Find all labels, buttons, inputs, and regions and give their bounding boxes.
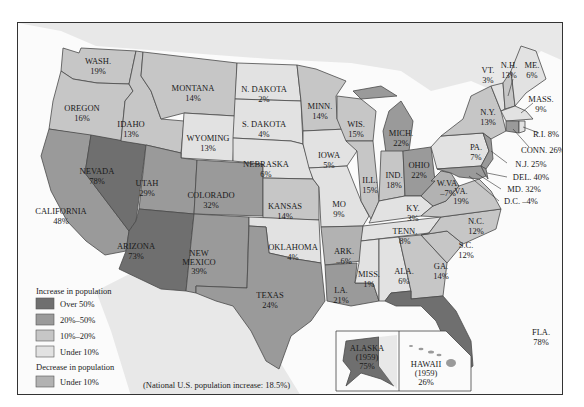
- svg-text:1%: 1%: [363, 279, 374, 289]
- svg-text:COLORADO: COLORADO: [187, 190, 234, 200]
- svg-text:WIS.: WIS.: [347, 119, 365, 129]
- svg-text:N. DAKOTA: N. DAKOTA: [241, 84, 287, 94]
- svg-text:N.H.: N.H.: [501, 60, 518, 70]
- svg-text:19%: 19%: [90, 66, 106, 76]
- national-increase-note: (National U.S. population increase: 18.5…: [143, 380, 290, 390]
- svg-text:MO: MO: [332, 199, 346, 209]
- svg-text:39%: 39%: [191, 266, 207, 276]
- svg-text:LA.: LA.: [334, 285, 347, 295]
- svg-text:18%: 18%: [386, 180, 402, 190]
- svg-text:6%: 6%: [526, 70, 537, 80]
- svg-text:29%: 29%: [139, 188, 155, 198]
- map-frame: WASH.19% OREGON16% CALIFORNIA48% IDAHO13…: [17, 22, 563, 395]
- svg-text:12%: 12%: [458, 250, 474, 260]
- svg-text:MASS.: MASS.: [528, 94, 553, 104]
- svg-text:Decrease in population: Decrease in population: [36, 362, 115, 372]
- svg-text:4%: 4%: [287, 252, 298, 262]
- svg-text:OKLAHOMA: OKLAHOMA: [268, 242, 318, 252]
- svg-text:–6%: –6%: [335, 256, 352, 266]
- svg-text:OREGON: OREGON: [64, 103, 99, 113]
- svg-text:NEBRASKA: NEBRASKA: [243, 159, 290, 169]
- svg-text:N.J. 25%: N.J. 25%: [515, 159, 546, 169]
- svg-text:78%: 78%: [89, 176, 105, 186]
- svg-text:Under 10%: Under 10%: [60, 347, 99, 357]
- svg-text:IOWA: IOWA: [318, 150, 341, 160]
- svg-text:75%: 75%: [359, 361, 375, 371]
- svg-text:MICH.: MICH.: [389, 128, 413, 138]
- svg-text:13%: 13%: [200, 143, 216, 153]
- svg-text:MISS.: MISS.: [358, 269, 380, 279]
- svg-text:48%: 48%: [53, 216, 69, 226]
- svg-text:KANSAS: KANSAS: [268, 201, 302, 211]
- svg-text:KY.: KY.: [406, 203, 419, 213]
- svg-text:N.Y.: N.Y.: [480, 107, 495, 117]
- state-connecticut: [506, 121, 519, 133]
- svg-text:TEXAS: TEXAS: [256, 290, 284, 300]
- svg-text:MONTANA: MONTANA: [172, 83, 216, 93]
- svg-text:ARIZONA: ARIZONA: [117, 241, 156, 251]
- svg-text:MD. 32%: MD. 32%: [507, 184, 541, 194]
- svg-text:OHIO: OHIO: [408, 160, 429, 170]
- svg-text:FLA.: FLA.: [532, 327, 550, 337]
- svg-text:W.VA.: W.VA.: [437, 178, 460, 188]
- svg-text:D.C. –4%: D.C. –4%: [504, 196, 538, 206]
- svg-text:IND.: IND.: [385, 170, 402, 180]
- svg-text:20%–50%: 20%–50%: [60, 315, 95, 325]
- svg-text:15%: 15%: [362, 185, 378, 195]
- svg-text:73%: 73%: [128, 251, 144, 261]
- svg-text:Increase in population: Increase in population: [36, 286, 112, 296]
- svg-text:7%: 7%: [470, 152, 481, 162]
- alaska-hawaii-inset: ALASKA (1959) 75% HAWAII (1959) 26%: [336, 331, 471, 391]
- svg-text:UTAH: UTAH: [136, 178, 159, 188]
- svg-text:16%: 16%: [74, 113, 90, 123]
- svg-text:GA.: GA.: [434, 261, 448, 271]
- svg-text:–7%: –7%: [439, 188, 456, 198]
- svg-text:10%–20%: 10%–20%: [60, 331, 95, 341]
- svg-text:DEL. 40%: DEL. 40%: [513, 172, 549, 182]
- svg-text:S.C.: S.C.: [459, 240, 474, 250]
- svg-text:WYOMING: WYOMING: [187, 133, 230, 143]
- svg-text:22%: 22%: [393, 138, 409, 148]
- svg-text:14%: 14%: [312, 111, 328, 121]
- svg-text:5%: 5%: [323, 160, 334, 170]
- svg-text:26%: 26%: [418, 377, 434, 387]
- svg-text:ILL.: ILL.: [362, 175, 377, 185]
- svg-text:8%: 8%: [399, 236, 410, 246]
- svg-text:13%: 13%: [480, 117, 496, 127]
- svg-text:ARK.: ARK.: [334, 246, 354, 256]
- svg-text:14%: 14%: [185, 93, 201, 103]
- svg-text:CALIFORNIA: CALIFORNIA: [35, 206, 87, 216]
- svg-text:14%: 14%: [277, 211, 293, 221]
- us-population-map: WASH.19% OREGON16% CALIFORNIA48% IDAHO13…: [18, 23, 563, 395]
- svg-text:ME.: ME.: [525, 60, 540, 70]
- svg-text:9%: 9%: [535, 104, 546, 114]
- svg-text:6%: 6%: [398, 276, 409, 286]
- svg-text:4%: 4%: [258, 129, 269, 139]
- svg-text:NEVADA: NEVADA: [80, 166, 116, 176]
- svg-text:IDAHO: IDAHO: [117, 119, 144, 129]
- svg-text:TENN.: TENN.: [393, 226, 418, 236]
- svg-text:N.C.: N.C.: [468, 216, 484, 226]
- svg-text:2%: 2%: [258, 94, 269, 104]
- svg-text:ALA.: ALA.: [394, 266, 414, 276]
- svg-text:WASH.: WASH.: [85, 56, 111, 66]
- svg-text:15%: 15%: [348, 129, 364, 139]
- svg-text:78%: 78%: [533, 337, 549, 347]
- svg-text:12%: 12%: [468, 226, 484, 236]
- svg-text:PA.: PA.: [470, 142, 482, 152]
- svg-text:13%: 13%: [501, 70, 517, 80]
- svg-text:22%: 22%: [411, 170, 427, 180]
- svg-text:32%: 32%: [203, 200, 219, 210]
- svg-text:MINN.: MINN.: [308, 101, 333, 111]
- svg-text:24%: 24%: [262, 300, 278, 310]
- svg-text:Over 50%: Over 50%: [60, 299, 95, 309]
- svg-text:VT.: VT.: [482, 65, 495, 75]
- svg-text:13%: 13%: [123, 129, 139, 139]
- state-rhode-island: [519, 121, 525, 133]
- svg-text:3%: 3%: [407, 213, 418, 223]
- svg-text:S. DAKOTA: S. DAKOTA: [242, 119, 287, 129]
- svg-text:3%: 3%: [482, 75, 493, 85]
- svg-text:6%: 6%: [260, 169, 271, 179]
- svg-text:21%: 21%: [333, 295, 349, 305]
- svg-text:14%: 14%: [433, 271, 449, 281]
